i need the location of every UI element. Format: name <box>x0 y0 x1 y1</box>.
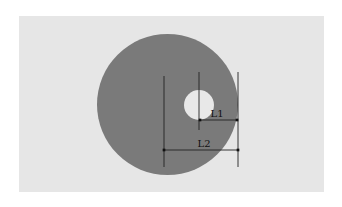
diagram-svg: L1L2 <box>0 0 342 207</box>
dimension-label: L1 <box>210 108 223 119</box>
large-disc <box>97 34 238 175</box>
dimension-label: L2 <box>197 138 210 149</box>
diagram-canvas: L1L2 <box>0 0 342 207</box>
